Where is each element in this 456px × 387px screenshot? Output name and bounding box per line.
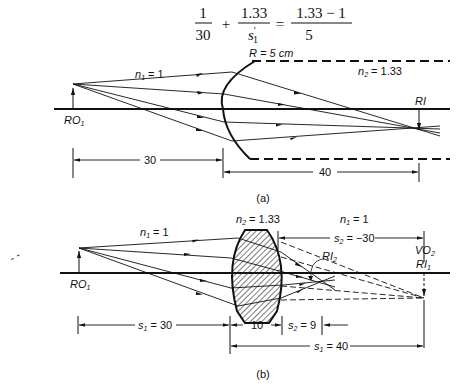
- dim-s2-prime-b: s2 = 9: [288, 319, 316, 332]
- dim-s1-prime-b: s1 = 40: [314, 340, 348, 353]
- virtual-rays-b: [281, 242, 424, 300]
- eq-equals: =: [276, 16, 284, 32]
- object-label-b: RO1: [70, 278, 91, 291]
- eq-rhs-den: 5: [305, 27, 313, 43]
- eq-term1-num: 1: [199, 5, 207, 21]
- svg-text:- -: - -: [7, 248, 22, 264]
- caption-b: (b): [256, 368, 269, 380]
- n1-label-b: n1 = 1: [140, 226, 169, 239]
- refracted-rays-a: [224, 72, 440, 141]
- refraction-equation: 1 30 + 1.33 s′1 = 1.33 − 1 5: [195, 5, 352, 45]
- figure-b: - -: [7, 213, 450, 380]
- eq-term2-num: 1.33: [241, 5, 267, 21]
- incident-rays-a: [73, 72, 232, 141]
- ri1-label-b: RI1: [416, 258, 431, 271]
- n1-right-label-b: n1 = 1: [340, 213, 369, 226]
- radius-label-a: R = 5 cm: [249, 47, 293, 59]
- dim-image-distance-a: 40: [319, 166, 331, 178]
- n2-label-a: n2 = 1.33: [358, 65, 402, 78]
- dim-object-distance-a: 30: [144, 154, 156, 166]
- ri2-label-b: RI2: [322, 250, 337, 263]
- ray-arrows-a: [196, 73, 204, 131]
- dim-thickness-b: 10: [251, 319, 263, 331]
- caption-a: (a): [256, 192, 269, 204]
- n1-label-a: n1 = 1: [135, 68, 164, 81]
- eq-plus: +: [222, 16, 230, 32]
- n2-label-b: n2 = 1.33: [236, 213, 280, 226]
- figure-a: n1 = 1 R = 5 cm n2 = 1.33 RO1 RI 30 40 (…: [54, 47, 450, 204]
- eq-term1-den: 30: [196, 27, 211, 43]
- eq-rhs-num: 1.33 − 1: [296, 5, 346, 21]
- optics-diagram: 1 30 + 1.33 s′1 = 1.33 − 1 5: [0, 0, 456, 387]
- dim-s1-b: s1 = 30: [138, 319, 172, 332]
- dim-s2-b: s2 = −30: [334, 232, 375, 245]
- image-label-a: RI: [415, 95, 426, 107]
- eq-term2-den: s′1: [248, 25, 258, 45]
- vo2-label-b: VO2: [415, 244, 435, 257]
- object-label-a: RO1: [64, 114, 85, 127]
